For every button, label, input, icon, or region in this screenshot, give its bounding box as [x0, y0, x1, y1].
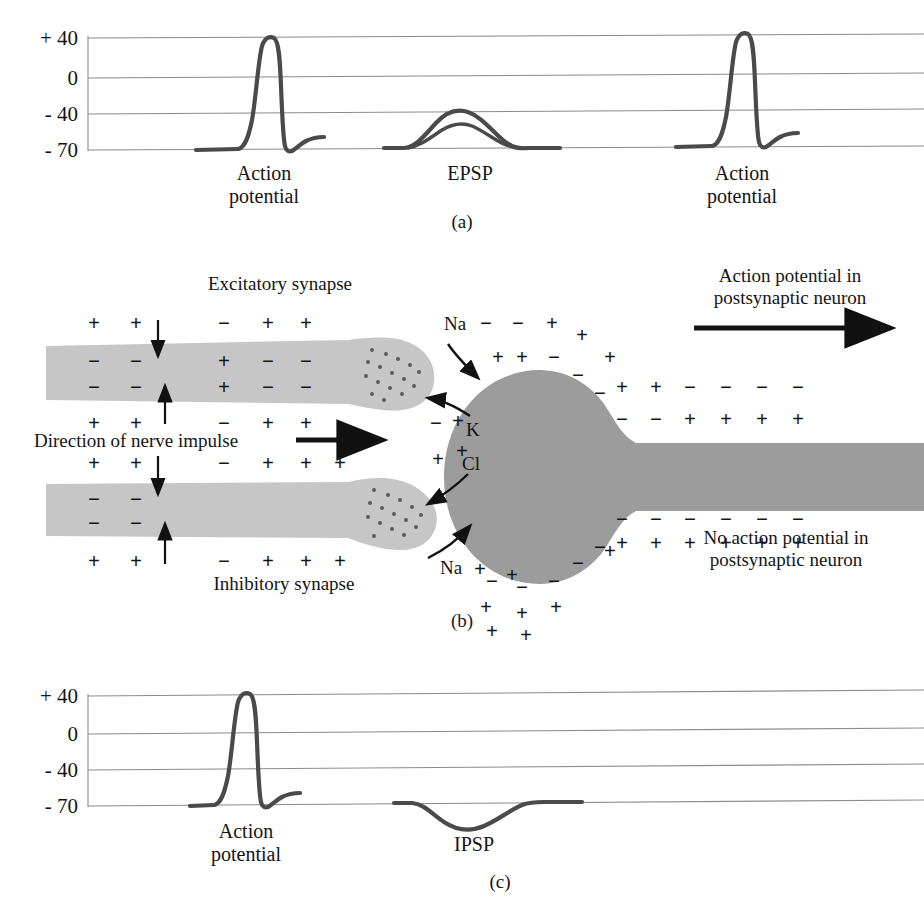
svg-text:−: −: [792, 507, 804, 531]
svg-text:+: +: [684, 531, 696, 555]
svg-text:−: −: [650, 507, 662, 531]
label-epsp: EPSP: [447, 162, 493, 184]
label-ipsp: IPSP: [454, 833, 494, 855]
svg-text:+: +: [452, 409, 464, 433]
svg-text:+: +: [300, 451, 312, 475]
svg-text:−: −: [548, 345, 560, 369]
svg-text:−: −: [548, 569, 560, 593]
panel-a-plot: + 40 0 - 40 - 70 Action potential EPSP A…: [0, 0, 924, 240]
svg-text:−: −: [792, 375, 804, 399]
svg-text:+: +: [300, 549, 312, 573]
svg-text:+: +: [650, 531, 662, 555]
excitatory-axon-shaft: [46, 338, 434, 411]
gridline-plus40-c: [88, 690, 924, 696]
label-action-potential-1-line1: Action: [237, 162, 291, 184]
panel-c-id: (c): [489, 871, 510, 893]
axis-tick-zero-c: 0: [68, 722, 79, 746]
svg-text:−: −: [684, 375, 696, 399]
svg-text:+: +: [130, 411, 142, 435]
svg-text:+: +: [604, 539, 616, 563]
na-arrow-upper: [448, 344, 478, 378]
svg-text:+: +: [492, 345, 504, 369]
axis-tick-minus70-a: - 70: [45, 138, 78, 162]
action-potential-postsynaptic-label-line1: Action potential in: [719, 265, 862, 286]
svg-text:+: +: [792, 407, 804, 431]
svg-text:+: +: [684, 407, 696, 431]
axis-tick-minus40-a: - 40: [45, 102, 78, 126]
excitatory-synapse-label: Excitatory synapse: [208, 273, 352, 294]
svg-text:+: +: [616, 531, 628, 555]
svg-text:+: +: [650, 375, 662, 399]
svg-text:−: −: [756, 507, 768, 531]
axis-tick-plus40-c: + 40: [40, 684, 78, 708]
svg-text:−: −: [572, 551, 584, 575]
svg-text:−: −: [218, 311, 230, 335]
trace-action-potential-2: [712, 33, 798, 147]
label-action-potential-c-line2: potential: [211, 843, 281, 866]
gridline-plus40: [88, 34, 924, 38]
svg-text:+: +: [130, 311, 142, 335]
label-action-potential-2-line2: potential: [707, 185, 777, 208]
svg-text:+: +: [88, 451, 100, 475]
svg-text:−: −: [262, 349, 274, 373]
excitatory-presynaptic-neuron: [46, 320, 434, 424]
svg-text:+: +: [262, 549, 274, 573]
ion-label-na-upper: Na: [444, 313, 467, 334]
svg-text:+: +: [720, 407, 732, 431]
label-action-potential-c-line1: Action: [219, 820, 273, 842]
ion-label-na-lower: Na: [440, 557, 463, 578]
axis-tick-zero-a: 0: [68, 66, 79, 90]
svg-text:−: −: [512, 311, 524, 335]
svg-text:+: +: [300, 411, 312, 435]
panel-b-diagram: Excitatory synapse Inhibitory synapse Di…: [0, 258, 924, 650]
svg-text:+: +: [474, 557, 486, 581]
panel-c: + 40 0 - 40 - 70 Action potential IPSP (…: [0, 648, 924, 909]
svg-text:−: −: [684, 507, 696, 531]
svg-text:−: −: [130, 511, 142, 535]
trace-ipsp: [412, 802, 578, 829]
svg-text:−: −: [262, 375, 274, 399]
svg-text:−: −: [650, 407, 662, 431]
svg-text:+: +: [456, 439, 468, 463]
trace-action-potential-c: [214, 693, 300, 807]
action-potential-postsynaptic-label-line2: postsynaptic neuron: [714, 287, 867, 308]
svg-text:+: +: [432, 447, 444, 471]
svg-text:−: −: [218, 451, 230, 475]
svg-text:−: −: [300, 375, 312, 399]
svg-text:−: −: [720, 375, 732, 399]
trace-baseline-c-left: [190, 805, 214, 806]
axis-tick-plus40-a: + 40: [40, 26, 78, 50]
svg-text:+: +: [262, 311, 274, 335]
svg-text:+: +: [300, 311, 312, 335]
svg-text:+: +: [756, 531, 768, 555]
svg-text:+: +: [616, 375, 628, 399]
svg-text:+: +: [546, 311, 558, 335]
svg-text:+: +: [756, 407, 768, 431]
svg-text:−: −: [616, 407, 628, 431]
svg-text:+: +: [604, 345, 616, 369]
trace-action-potential-1: [238, 37, 324, 151]
ion-label-k: K: [466, 419, 480, 440]
svg-text:+: +: [218, 375, 230, 399]
gridline-zero-c: [88, 728, 924, 734]
svg-text:−: −: [616, 507, 628, 531]
panel-b-id: (b): [451, 610, 473, 631]
trace-baseline-left: [196, 149, 238, 150]
svg-text:−: −: [720, 507, 732, 531]
svg-text:−: −: [130, 487, 142, 511]
axis-tick-minus40-c: - 40: [45, 758, 78, 782]
svg-text:+: +: [218, 349, 230, 373]
svg-text:−: −: [594, 381, 606, 405]
svg-text:+: +: [130, 549, 142, 573]
svg-text:+: +: [130, 451, 142, 475]
svg-text:−: −: [486, 569, 498, 593]
svg-text:−: −: [88, 487, 100, 511]
svg-text:−: −: [88, 349, 100, 373]
svg-text:−: −: [300, 349, 312, 373]
svg-text:+: +: [506, 563, 518, 587]
svg-text:+: +: [334, 549, 346, 573]
gridline-zero: [88, 73, 924, 78]
svg-text:−: −: [218, 411, 230, 435]
svg-text:+: +: [516, 345, 528, 369]
svg-text:−: −: [218, 549, 230, 573]
